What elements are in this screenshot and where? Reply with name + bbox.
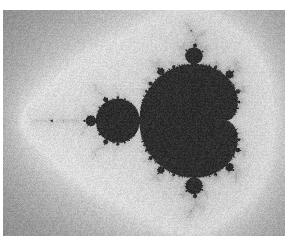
figure-alt-text: Grayscale rendering of the Mandelbrot se…: [0, 0, 1, 1]
mandelbrot-figure: Mandelbrot Set Grayscale rendering of th…: [0, 0, 291, 244]
mandelbrot-fractal-canvas: [3, 10, 285, 236]
axis-label-y: Im(c): [0, 0, 1, 1]
figure-title: Mandelbrot Set: [0, 0, 1, 1]
axis-label-x: Re(c): [0, 0, 1, 1]
